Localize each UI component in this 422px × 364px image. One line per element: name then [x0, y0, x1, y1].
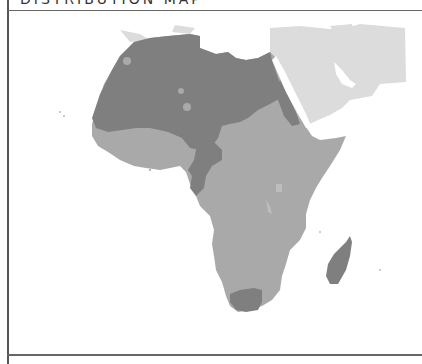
page-title: DISTRIBUTION MAP: [20, 0, 203, 7]
lake: [276, 184, 282, 192]
frame-border-bottom: [7, 354, 422, 356]
spot: [178, 88, 184, 94]
distribution-map: [9, 11, 422, 354]
spot: [123, 57, 131, 65]
spot: [183, 103, 191, 111]
region-madagascar: [326, 236, 352, 284]
